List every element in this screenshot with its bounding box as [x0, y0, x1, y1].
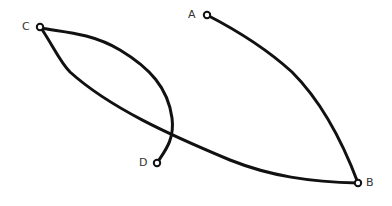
node-d[interactable] — [154, 160, 160, 166]
diagram-canvas: A B C D — [0, 0, 392, 206]
node-c-label: C — [22, 21, 30, 32]
edge-c-b — [41, 28, 358, 183]
edge-c-d — [41, 28, 173, 163]
node-a-label: A — [188, 9, 196, 20]
node-b[interactable] — [355, 180, 361, 186]
edge-a-b — [207, 15, 358, 183]
node-a[interactable] — [204, 12, 210, 18]
node-d-label: D — [139, 157, 147, 168]
node-c[interactable] — [37, 24, 43, 30]
node-b-label: B — [366, 177, 374, 188]
diagram-svg — [0, 0, 392, 206]
